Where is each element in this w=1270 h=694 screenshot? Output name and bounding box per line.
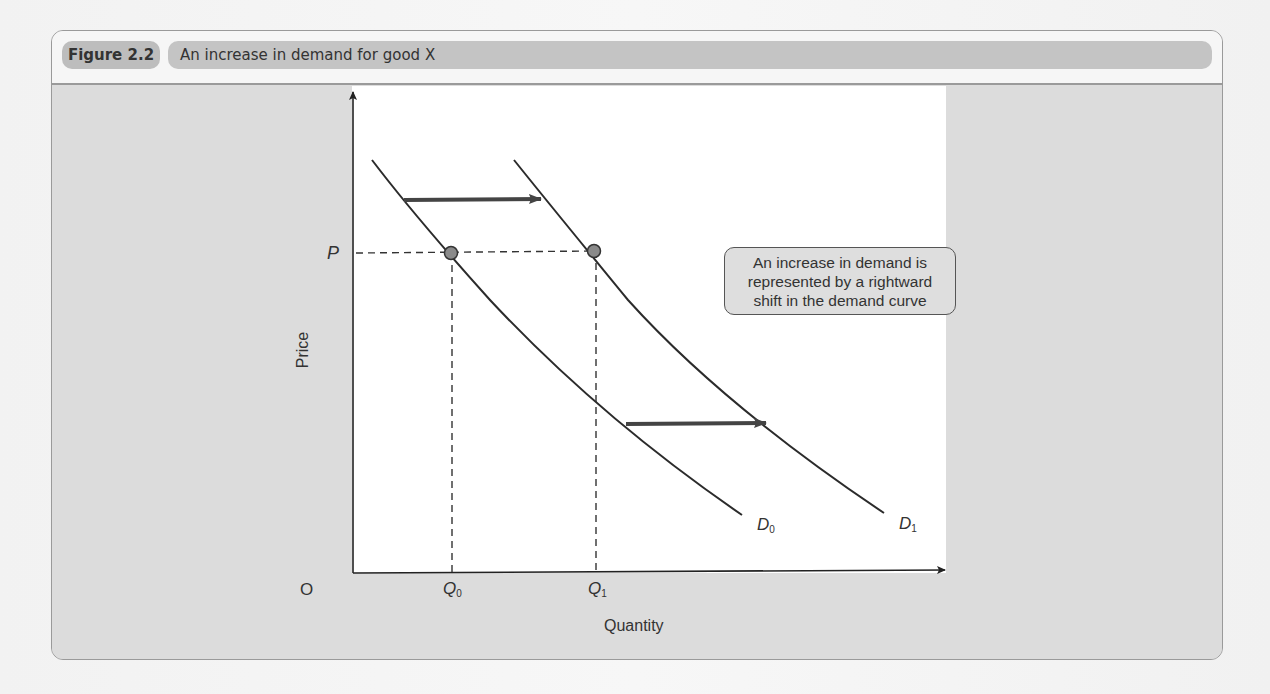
q0-main: Q	[443, 579, 456, 598]
explanation-callout: An increase in demand is represented by …	[724, 247, 956, 315]
q0-tick-label: Q0	[443, 579, 462, 599]
callout-line-3: shift in the demand curve	[725, 291, 955, 310]
q1-sub: 1	[601, 588, 607, 599]
shift-arrow-lower	[626, 423, 766, 424]
x-axis-label: Quantity	[604, 617, 664, 635]
callout-line-2: represented by a rightward	[725, 272, 955, 291]
callout-line-1: An increase in demand is	[725, 253, 955, 272]
demand-shift-chart	[0, 0, 1270, 694]
y-axis-label-text: Price	[294, 332, 311, 368]
d1-main: D	[899, 514, 911, 533]
shift-arrow-upper	[404, 199, 541, 200]
d0-label: D0	[757, 515, 775, 535]
equilibrium-point-q1	[588, 245, 601, 258]
d1-sub: 1	[911, 523, 917, 534]
plot-area	[352, 86, 946, 573]
d1-label: D1	[899, 514, 917, 534]
d0-main: D	[757, 515, 769, 534]
origin-label: O	[300, 580, 313, 600]
q1-tick-label: Q1	[588, 579, 607, 599]
y-axis-label: Price	[294, 330, 314, 370]
q0-sub: 0	[456, 588, 462, 599]
q1-main: Q	[588, 579, 601, 598]
equilibrium-point-q0	[445, 247, 458, 260]
d0-sub: 0	[769, 524, 775, 535]
price-tick-label: P	[327, 243, 339, 264]
